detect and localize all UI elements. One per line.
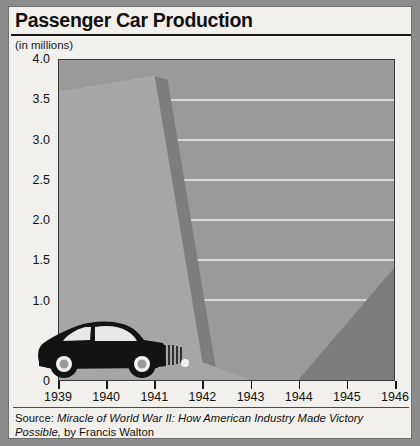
page-title: Passenger Car Production (9, 7, 412, 33)
y-tick-label: 3.0 (33, 133, 50, 147)
x-tick-label: 1940 (92, 390, 120, 404)
area-recovery-shadow (298, 268, 394, 380)
x-axis-ticks (58, 381, 395, 390)
x-tick-label: 1944 (285, 390, 313, 404)
y-axis: 01.01.52.02.53.03.54.0 (9, 59, 54, 381)
x-tick-label: 1943 (237, 390, 265, 404)
x-tick-label: 1945 (333, 390, 361, 404)
source-citation: Source: Miracle of World War II: How Ame… (15, 411, 407, 439)
x-tick (299, 381, 301, 389)
y-tick-label: 2.5 (33, 173, 50, 187)
y-tick-label: 2.0 (33, 213, 50, 227)
x-tick (251, 381, 253, 389)
x-tick-label: 1941 (140, 390, 168, 404)
source-prefix: Source: (15, 412, 57, 424)
x-tick-label: 1942 (189, 390, 217, 404)
y-tick-label: 3.5 (33, 92, 50, 106)
y-tick-label: 1.5 (33, 253, 50, 267)
y-tick-label: 0 (43, 374, 50, 388)
x-tick (58, 381, 60, 389)
chart-figure: Passenger Car Production (in millions) 0… (0, 0, 420, 446)
data-area (59, 76, 394, 380)
source-author: by Francis Walton (61, 426, 154, 438)
chart-header: Passenger Car Production (in millions) (9, 7, 412, 52)
x-tick (395, 381, 397, 389)
x-tick (154, 381, 156, 389)
x-tick-label: 1946 (381, 390, 409, 404)
x-tick (347, 381, 349, 389)
source-divider (13, 407, 409, 408)
y-axis-units-label: (in millions) (9, 36, 412, 52)
y-tick-label: 1.0 (33, 294, 50, 308)
plot-area (58, 59, 395, 381)
y-tick-label: 4.0 (33, 52, 50, 66)
x-tick (202, 381, 204, 389)
x-tick (106, 381, 108, 389)
area-chart-svg (59, 60, 394, 380)
x-tick-label: 1939 (44, 390, 72, 404)
x-axis: 19391940194119421943194419451946 (9, 390, 412, 406)
chart-card: Passenger Car Production (in millions) 0… (8, 6, 412, 439)
